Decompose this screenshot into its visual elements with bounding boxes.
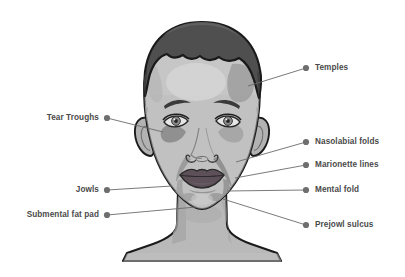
leader-line-marionette-lines [235,165,306,178]
callout-dot-nasolabial-folds[interactable] [303,139,309,145]
leader-line-mental-fold [227,190,306,191]
label-tear-troughs[interactable]: Tear Troughs [47,114,99,122]
label-submental-fat-pad[interactable]: Submental fat pad [27,211,99,219]
label-jowls[interactable]: Jowls [76,186,99,194]
label-marionette-lines[interactable]: Marionette lines [315,161,379,169]
callout-dot-submental-fat-pad[interactable] [104,212,110,218]
face-shading [140,63,266,212]
label-prejowl-sulcus[interactable]: Prejowl sulcus [315,221,373,229]
head-group [140,22,266,212]
label-nasolabial-folds[interactable]: Nasolabial folds [315,138,379,146]
callout-dot-mental-fold[interactable] [303,187,309,193]
leader-line-jowls [107,186,172,190]
callout-dot-temples[interactable] [303,65,309,71]
callout-dot-tear-troughs[interactable] [104,115,110,121]
eye-left-catchlight [174,119,176,121]
callout-dot-prejowl-sulcus[interactable] [303,222,309,228]
callout-dot-marionette-lines[interactable] [303,162,309,168]
label-temples[interactable]: Temples [315,64,348,72]
label-mental-fold[interactable]: Mental fold [315,186,359,194]
leader-line-prejowl-sulcus [223,199,306,225]
eye-right-catchlight [226,119,228,121]
callout-dot-jowls[interactable] [104,187,110,193]
facial-anatomy-diagram: TemplesNasolabial foldsMarionette linesM… [0,0,405,277]
